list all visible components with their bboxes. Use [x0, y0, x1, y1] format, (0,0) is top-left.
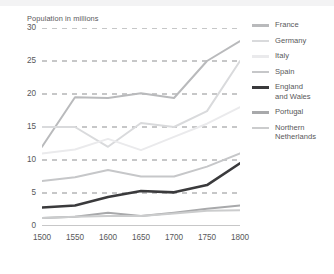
- legend-label: France: [275, 20, 299, 29]
- series-line-england-and-wales: [42, 163, 240, 207]
- legend-swatch: [252, 86, 269, 89]
- x-axis-tick-label: 1500: [27, 233, 57, 242]
- legend-item[interactable]: Spain: [252, 67, 332, 76]
- legend-item[interactable]: Germany: [252, 36, 332, 45]
- legend-label: Spain: [275, 67, 294, 76]
- x-axis-tick-label: 1550: [60, 233, 90, 242]
- series-line-italy: [42, 107, 240, 153]
- legend-swatch: [252, 127, 269, 130]
- y-axis-title: Population in millions: [27, 14, 99, 23]
- legend-swatch: [252, 71, 269, 74]
- legend-item[interactable]: Northern Netherlands: [252, 123, 332, 141]
- x-axis-tick-label: 1700: [159, 233, 189, 242]
- legend-swatch: [252, 24, 269, 27]
- legend-swatch: [252, 55, 269, 58]
- series-canvas: [42, 28, 240, 226]
- x-axis-tick-label: 1600: [93, 233, 123, 242]
- legend-label: Italy: [275, 51, 289, 60]
- legend-item[interactable]: France: [252, 20, 332, 29]
- series-line-spain: [42, 153, 240, 181]
- y-axis-tick-label: 15: [16, 122, 36, 131]
- y-axis-tick-label: 10: [16, 155, 36, 164]
- legend-label: England and Wales: [275, 82, 311, 100]
- series-line-northern-netherlands: [42, 210, 240, 218]
- legend-item[interactable]: Italy: [252, 51, 332, 60]
- legend-swatch: [252, 111, 269, 114]
- series-line-france: [42, 41, 240, 147]
- legend-label: Germany: [275, 36, 306, 45]
- legend-label: Northern Netherlands: [275, 123, 316, 141]
- legend-item[interactable]: England and Wales: [252, 82, 332, 100]
- x-axis-tick-label: 1650: [126, 233, 156, 242]
- legend-label: Portugal: [275, 107, 303, 116]
- chart-figure: Population in millions FranceGermanyItal…: [0, 0, 334, 274]
- x-axis-tick-label: 1750: [192, 233, 222, 242]
- y-axis-tick-label: 25: [16, 56, 36, 65]
- plot-area: [42, 28, 240, 226]
- y-axis-tick-label: 30: [16, 23, 36, 32]
- y-axis-tick-label: 5: [16, 188, 36, 197]
- chart-legend: FranceGermanyItalySpainEngland and Wales…: [252, 20, 332, 148]
- x-axis-tick-label: 1800: [225, 233, 255, 242]
- y-axis-tick-label: 0: [16, 221, 36, 230]
- y-axis-tick-label: 20: [16, 89, 36, 98]
- legend-item[interactable]: Portugal: [252, 107, 332, 116]
- legend-swatch: [252, 40, 269, 43]
